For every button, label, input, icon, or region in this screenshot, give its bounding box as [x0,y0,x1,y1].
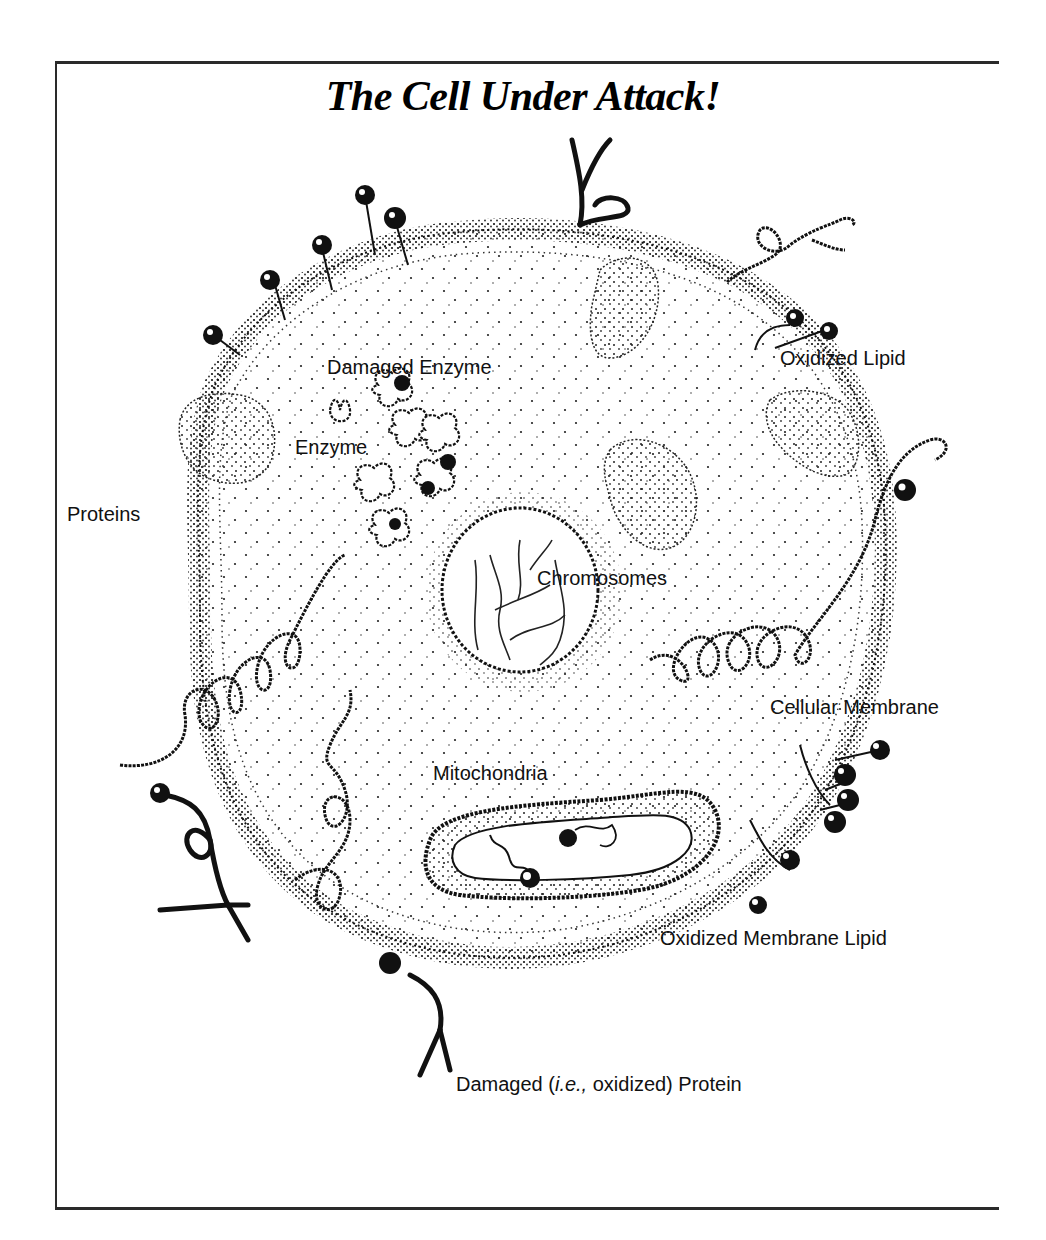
label-chromosomes: Chromosomes [537,568,667,588]
label-damaged-protein-suffix: oxidized) Protein [587,1073,742,1095]
label-enzyme: Enzyme [295,437,367,457]
cell-illustration [0,0,1046,1240]
label-proteins: Proteins [67,504,140,524]
label-mitochondria: Mitochondria [433,763,548,783]
y-protein-top [572,140,628,225]
label-oxidized-membrane-lipid: Oxidized Membrane Lipid [660,928,887,948]
label-cellular-membrane: Cellular Membrane [770,697,939,717]
nucleus [426,492,622,692]
label-damaged-protein-prefix: Damaged ( [456,1073,555,1095]
label-damaged-enzyme: Damaged Enzyme [327,357,492,377]
label-damaged-protein-ie: i.e., [555,1073,587,1095]
label-oxidized-lipid: Oxidized Lipid [780,348,906,368]
label-damaged-protein: Damaged (i.e., oxidized) Protein [456,1074,742,1094]
